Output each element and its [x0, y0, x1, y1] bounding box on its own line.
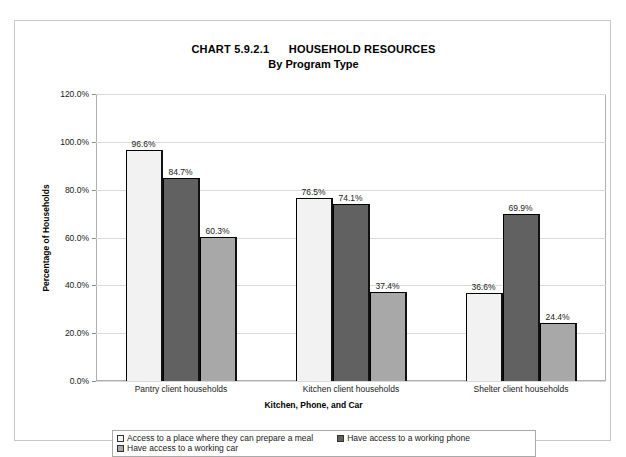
legend-swatch-icon-1 [337, 435, 344, 442]
bar-value-label: 24.4% [545, 312, 569, 322]
legend-swatch-icon-2 [117, 445, 124, 452]
bar[interactable]: 76.5% [296, 198, 333, 381]
y-axis-tick-label: 0.0% [70, 376, 89, 386]
plot-wrapper: 0.0%20.0%40.0%60.0%80.0%100.0%120.0% 96.… [96, 94, 606, 381]
bar[interactable]: 37.4% [370, 292, 407, 381]
legend-swatch-icon-0 [117, 435, 124, 442]
bar-group: 36.6%69.9%24.4% [436, 94, 606, 381]
x-axis-title: Kitchen, Phone, and Car [15, 400, 612, 410]
bar-value-label: 96.6% [131, 139, 155, 149]
x-axis-category-label: Kitchen client households [303, 384, 399, 394]
y-axis-title-text: Percentage of Households [41, 184, 51, 291]
legend-label-1: Have access to a working phone [347, 433, 470, 443]
bar-group: 96.6%84.7%60.3% [96, 94, 266, 381]
bar-value-label: 69.9% [508, 203, 532, 213]
legend-row-1: Access to a place where they can prepare… [117, 433, 532, 443]
chart-legend: Access to a place where they can prepare… [112, 430, 536, 457]
y-axis-tick-label: 100.0% [60, 137, 89, 147]
y-axis-tick-label: 60.0% [65, 233, 89, 243]
bar[interactable]: 84.7% [163, 178, 200, 381]
bar[interactable]: 36.6% [466, 293, 503, 381]
chart-title-block: CHART 5.9.2.1 HOUSEHOLD RESOURCES By Pro… [15, 43, 612, 70]
bar-value-label: 74.1% [338, 193, 362, 203]
bar-groups-layer: 96.6%84.7%60.3%76.5%74.1%37.4%36.6%69.9%… [96, 94, 606, 381]
bar[interactable]: 74.1% [333, 204, 370, 381]
bar-value-label: 36.6% [471, 282, 495, 292]
legend-item-2: Have access to a working car [117, 443, 238, 453]
y-axis-tick-label: 40.0% [65, 280, 89, 290]
legend-label-0: Access to a place where they can prepare… [127, 433, 313, 443]
y-axis-tick-label: 80.0% [65, 185, 89, 195]
chart-subtitle: By Program Type [15, 58, 612, 70]
bar-group: 76.5%74.1%37.4% [266, 94, 436, 381]
chart-frame: CHART 5.9.2.1 HOUSEHOLD RESOURCES By Pro… [14, 20, 611, 441]
bar-value-label: 84.7% [168, 167, 192, 177]
legend-item-1: Have access to a working phone [337, 433, 470, 443]
x-axis-category-label: Pantry client households [135, 384, 228, 394]
bar-value-label: 37.4% [375, 281, 399, 291]
bar[interactable]: 24.4% [540, 323, 577, 381]
y-axis-tick-label: 120.0% [60, 89, 89, 99]
x-axis-category-label: Shelter client households [474, 384, 569, 394]
category-labels: Pantry client householdsKitchen client h… [96, 384, 606, 398]
bar[interactable]: 60.3% [200, 237, 237, 381]
y-axis-tick [92, 381, 96, 382]
legend-item-0: Access to a place where they can prepare… [117, 433, 313, 443]
bar-value-label: 76.5% [301, 187, 325, 197]
y-axis-title: Percentage of Households [39, 94, 53, 381]
bar[interactable]: 96.6% [126, 150, 163, 381]
legend-label-2: Have access to a working car [127, 443, 238, 453]
gridline [96, 381, 606, 382]
bar[interactable]: 69.9% [503, 214, 540, 381]
legend-row-2: Have access to a working car [117, 443, 532, 453]
y-axis-tick-label: 20.0% [65, 328, 89, 338]
chart-title: CHART 5.9.2.1 HOUSEHOLD RESOURCES [15, 43, 612, 55]
bar-value-label: 60.3% [205, 226, 229, 236]
